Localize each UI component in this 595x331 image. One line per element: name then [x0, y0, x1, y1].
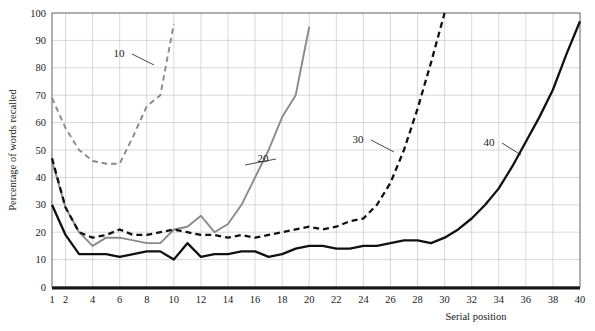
x-axis-tick-label: 2 — [63, 294, 68, 305]
series-label-40: 40 — [484, 136, 496, 148]
y-axis-tick-label: 40 — [36, 172, 47, 183]
chart-background — [0, 0, 595, 331]
y-axis-tick-label: 50 — [36, 145, 47, 156]
y-axis-tick-label: 20 — [36, 227, 47, 238]
y-axis-tick-label: 80 — [36, 62, 47, 73]
y-axis-tick-label: 0 — [41, 282, 46, 293]
y-axis-tick-label: 30 — [36, 199, 47, 210]
series-label-10: 10 — [114, 47, 126, 59]
x-axis-tick-label: 14 — [223, 294, 234, 305]
x-axis-tick-label: 34 — [494, 294, 505, 305]
x-axis-tick-label: 32 — [466, 294, 477, 305]
x-axis-tick-label: 1 — [49, 294, 54, 305]
x-axis-title: Serial position — [446, 311, 508, 322]
x-axis-tick-label: 16 — [250, 294, 261, 305]
x-axis-tick-label: 8 — [144, 294, 149, 305]
x-axis-tick-label: 40 — [575, 294, 586, 305]
x-axis-tick-label: 18 — [277, 294, 288, 305]
chart-svg: 0102030405060708090100 12468101214161820… — [0, 0, 595, 331]
x-axis-tick-label: 28 — [412, 294, 423, 305]
series-label-30: 30 — [353, 133, 365, 145]
x-axis-tick-label: 6 — [117, 294, 122, 305]
y-axis-title: Percentage of words recalled — [7, 88, 18, 210]
y-axis-tick-label: 90 — [36, 35, 47, 46]
x-axis-tick-label: 12 — [196, 294, 207, 305]
serial-position-chart-figure: 0102030405060708090100 12468101214161820… — [0, 0, 595, 331]
x-axis-tick-label: 20 — [304, 294, 315, 305]
x-axis-tick-label: 26 — [385, 294, 396, 305]
x-axis-tick-label: 30 — [439, 294, 450, 305]
series-label-20: 20 — [258, 152, 270, 164]
x-axis-tick-label: 10 — [169, 294, 180, 305]
x-axis-tick-label: 22 — [331, 294, 342, 305]
x-axis-tick-label: 24 — [358, 294, 369, 305]
y-axis-tick-label: 100 — [30, 8, 46, 19]
x-axis-tick-label: 36 — [521, 294, 532, 305]
x-axis-tick-label: 4 — [90, 294, 96, 305]
y-axis-tick-label: 10 — [36, 254, 47, 265]
x-axis-tick-label: 38 — [548, 294, 559, 305]
y-axis-tick-label: 70 — [36, 90, 47, 101]
y-axis-tick-label: 60 — [36, 117, 47, 128]
